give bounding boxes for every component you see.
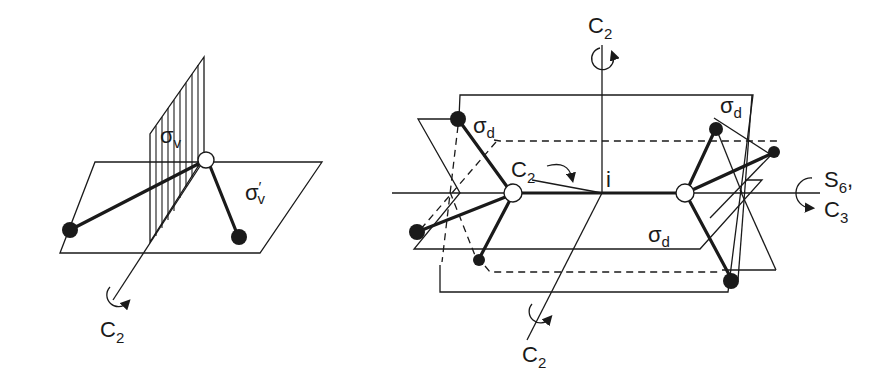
sigma-d-bottom-label: σd: [648, 222, 670, 250]
c2-inner-axis: [532, 180, 602, 193]
c2-axis-line: [113, 160, 204, 300]
central-atom-left: [504, 184, 522, 202]
c2-oblique-axis: [527, 193, 602, 340]
hidden-plane-top: [494, 140, 780, 141]
bond-right-top: [688, 128, 716, 188]
c2-label: C2: [100, 317, 124, 346]
atom-left: [62, 222, 78, 238]
central-atom: [198, 152, 214, 168]
right-molecule-diagram: C2 σd σd C2 i σd S6, C3 C2: [392, 13, 853, 371]
sigma-v-prime-label: σ′v: [245, 178, 265, 207]
left-molecule-diagram: σv σ′v C2: [60, 57, 322, 346]
symmetry-diagram: σv σ′v C2: [0, 0, 883, 377]
atom-right-top: [709, 122, 723, 136]
central-atom-right: [676, 184, 694, 202]
right-plane-edge: [740, 190, 776, 270]
c2-bottom-rotation-icon: [529, 304, 549, 323]
hidden-line-1: [442, 126, 458, 262]
bond-right-bottom: [688, 198, 732, 280]
bond-left-bottom: [479, 200, 510, 259]
sigma-v-label: σv: [160, 123, 182, 151]
atom-right-upper: [768, 146, 780, 158]
c2-inner-rotation-icon: [547, 165, 572, 179]
atom-left-lower: [409, 224, 425, 240]
sigma-d-right-label: σd: [720, 93, 742, 121]
c3-label: C3: [824, 197, 848, 226]
hidden-line-2: [450, 192, 476, 258]
c2-bottom-label: C2: [522, 342, 546, 371]
bond-right-thin-1: [716, 128, 742, 193]
c2-rotation-arrow-icon: [107, 287, 127, 307]
sigma-v-prime-plane: [60, 162, 322, 253]
atom-right-bottom: [723, 273, 739, 289]
bond-right: [210, 166, 238, 236]
c2-top-label: C2: [588, 13, 612, 42]
atom-left-bottom: [473, 254, 485, 266]
c2-inner-label: C2: [511, 157, 535, 186]
inversion-center-label: i: [606, 167, 611, 192]
sigma-d-left-label: σd: [473, 113, 495, 141]
s6-label: S6,: [824, 167, 853, 196]
atom-left-top: [450, 111, 466, 127]
atom-right: [231, 229, 247, 245]
sigma-d-plane-right: [714, 118, 773, 156]
hidden-plane-bottom: [485, 266, 720, 272]
bond-right-thin-2: [710, 153, 773, 218]
